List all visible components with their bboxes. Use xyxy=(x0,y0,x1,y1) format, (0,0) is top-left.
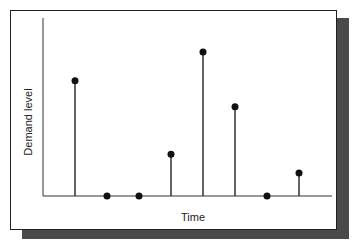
stem-point xyxy=(136,193,143,200)
stem-point xyxy=(232,103,239,110)
stem-point xyxy=(72,77,79,84)
stem-marks xyxy=(72,49,303,200)
x-axis-label: Time xyxy=(181,211,205,223)
stem-point xyxy=(104,193,111,200)
stem-point xyxy=(296,169,303,176)
stem-point xyxy=(168,151,175,158)
stem-point xyxy=(200,49,207,56)
stem-point xyxy=(264,193,271,200)
y-axis-label: Demand level xyxy=(22,88,34,155)
stem-chart xyxy=(0,0,355,242)
